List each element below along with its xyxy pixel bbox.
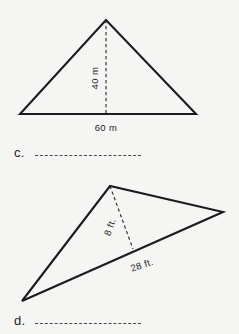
problem-letter-d: d.	[14, 314, 25, 327]
answer-blank-d[interactable]	[35, 322, 141, 324]
triangle-d-altitude-dashed-line	[110, 186, 133, 249]
answer-row-d: d.	[14, 314, 141, 327]
triangle-d-height-label: 8 ft.	[101, 217, 117, 238]
triangle-d-outline	[22, 186, 223, 301]
figure-d-triangle: 8 ft. 28 ft.	[0, 0, 239, 334]
triangle-d-base-label: 28 ft.	[129, 256, 155, 274]
worksheet-page: 40 m 60 m c. 8 ft. 28 ft. d.	[0, 0, 239, 334]
